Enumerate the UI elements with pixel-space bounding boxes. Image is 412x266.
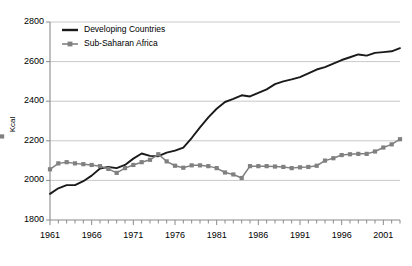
legend-label-0: Developing Countries: [84, 24, 165, 34]
series-marker: [331, 156, 335, 160]
series-marker: [256, 164, 260, 168]
axis-ticks: [46, 22, 400, 225]
series-marker: [106, 167, 110, 171]
series-marker: [198, 163, 202, 167]
series-marker: [340, 153, 344, 157]
data-series: [0, 48, 402, 194]
axis-frame: [50, 22, 400, 220]
series-marker: [81, 162, 85, 166]
y-tick-label: 2400: [8, 95, 44, 105]
series-marker: [306, 165, 310, 169]
series-marker: [206, 164, 210, 168]
series-marker: [98, 164, 102, 168]
y-tick-label: 2200: [8, 135, 44, 145]
series-marker: [181, 166, 185, 170]
x-tick-label: 1996: [322, 230, 362, 240]
chart-legend: [62, 30, 78, 46]
y-tick-label: 2000: [8, 174, 44, 184]
series-marker: [115, 171, 119, 175]
chart-container: Kcal 180020002200240026002800 1961196619…: [0, 0, 412, 266]
series-marker: [281, 165, 285, 169]
series-marker: [273, 164, 277, 168]
x-tick-label: 1991: [280, 230, 320, 240]
series-marker: [73, 161, 77, 165]
series-marker: [398, 137, 402, 141]
series-marker: [298, 165, 302, 169]
series-marker: [65, 160, 69, 164]
series-marker: [240, 176, 244, 180]
series-marker: [190, 163, 194, 167]
series-marker: [223, 170, 227, 174]
x-tick-label: 1976: [155, 230, 195, 240]
series-marker: [0, 134, 4, 138]
y-tick-label: 2800: [8, 16, 44, 26]
series-marker: [48, 167, 52, 171]
series-marker: [373, 149, 377, 153]
series-marker: [315, 164, 319, 168]
x-tick-label: 1986: [238, 230, 278, 240]
x-tick-label: 1971: [113, 230, 153, 240]
legend-label-1: Sub-Saharan Africa: [84, 38, 158, 48]
series-marker: [165, 159, 169, 163]
series-marker: [365, 152, 369, 156]
series-marker: [290, 166, 294, 170]
series-marker: [381, 145, 385, 149]
series-marker: [123, 166, 127, 170]
line-chart: [0, 0, 412, 266]
series-marker: [215, 166, 219, 170]
y-tick-label: 2600: [8, 56, 44, 66]
x-tick-label: 1981: [197, 230, 237, 240]
series-marker: [156, 152, 160, 156]
series-marker: [231, 172, 235, 176]
series-marker: [173, 164, 177, 168]
series-marker: [90, 163, 94, 167]
series-marker: [131, 163, 135, 167]
y-tick-label: 1800: [8, 214, 44, 224]
series-marker: [356, 152, 360, 156]
series-marker: [148, 158, 152, 162]
series-marker: [348, 152, 352, 156]
x-tick-label: 1966: [72, 230, 112, 240]
x-tick-label: 1961: [30, 230, 70, 240]
series-marker: [140, 160, 144, 164]
legend-swatch-marker: [68, 42, 73, 47]
x-tick-label: 2001: [363, 230, 403, 240]
series-marker: [390, 142, 394, 146]
series-marker: [56, 161, 60, 165]
series-marker: [265, 164, 269, 168]
series-marker: [248, 164, 252, 168]
series-marker: [323, 159, 327, 163]
